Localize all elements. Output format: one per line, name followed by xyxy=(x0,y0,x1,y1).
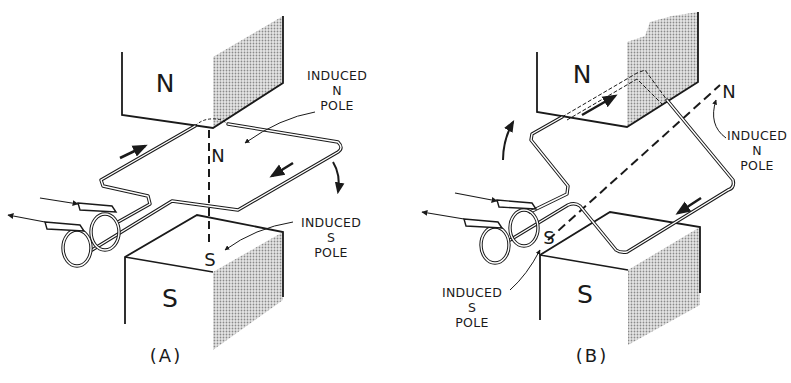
svg-text:S: S xyxy=(327,230,335,245)
rotation-arrow-a xyxy=(333,162,339,192)
magnet-n-label-b: N xyxy=(573,60,592,89)
callout-induced-s-a: INDUCED S POLE xyxy=(225,215,361,260)
panel-b: N S xyxy=(422,12,787,366)
svg-text:POLE: POLE xyxy=(455,315,488,330)
induced-s-letter-a: S xyxy=(204,249,215,270)
current-arrow-b1 xyxy=(582,96,615,115)
panel-a: N S xyxy=(8,16,367,366)
slip-rings-b xyxy=(481,210,538,263)
svg-text:N: N xyxy=(332,83,342,98)
svg-text:S: S xyxy=(468,300,476,315)
current-arrow-a2 xyxy=(272,163,293,176)
svg-text:POLE: POLE xyxy=(740,158,773,173)
svg-text:N: N xyxy=(752,143,762,158)
south-magnet-a: S xyxy=(125,215,283,350)
callout-induced-n-b: INDUCED N POLE xyxy=(714,100,788,173)
south-magnet-b: S xyxy=(540,212,700,345)
induced-n-letter-b: N xyxy=(722,81,735,102)
svg-text:POLE: POLE xyxy=(314,245,347,260)
current-arrow-b2 xyxy=(678,198,701,213)
magnet-s-label-b: S xyxy=(577,280,593,309)
induced-n-letter-a: N xyxy=(211,145,224,166)
armature-diagram: N S xyxy=(0,0,791,383)
svg-text:POLE: POLE xyxy=(320,98,353,113)
armature-loop-a xyxy=(92,124,341,250)
svg-text:INDUCED: INDUCED xyxy=(442,285,502,300)
north-magnet-a: N xyxy=(122,16,283,128)
magnet-s-label-a: S xyxy=(162,284,178,313)
svg-text:INDUCED: INDUCED xyxy=(727,128,787,143)
svg-text:INDUCED: INDUCED xyxy=(307,68,367,83)
caption-a: (A) xyxy=(150,345,182,366)
rotation-arrow-b xyxy=(503,122,513,160)
induced-s-letter-b: S xyxy=(543,227,554,248)
svg-text:INDUCED: INDUCED xyxy=(301,215,361,230)
magnet-n-label-a: N xyxy=(156,69,175,98)
caption-b: (B) xyxy=(576,345,608,366)
